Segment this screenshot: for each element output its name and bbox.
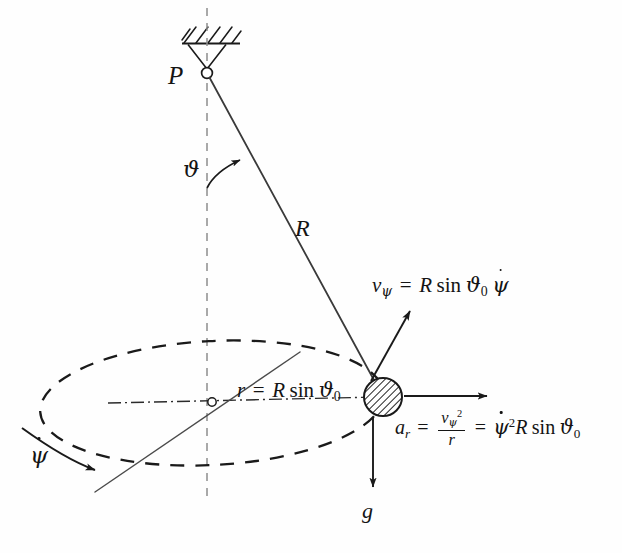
depth-axis-line	[95, 352, 300, 492]
gravity-label: g	[362, 500, 373, 522]
ceiling-support	[182, 27, 241, 69]
pivot-hinge-icon	[202, 68, 213, 79]
polar-angle-label: ϑ	[183, 158, 199, 181]
orbit-center-marker	[208, 398, 216, 406]
azimuth-rate-label: ψ	[30, 444, 48, 467]
velocity-vector-arrow	[371, 311, 410, 381]
pivot-label: P	[168, 63, 183, 88]
diagram-canvas: P ϑ R vψ=Rsinϑ0ψ r=Rsinϑ0 ar=vψ2r=ψ2Rsin…	[0, 0, 622, 553]
orbit-radius-equation-label: r=Rsinϑ0	[237, 380, 341, 404]
theta-angle-arc	[207, 160, 240, 188]
velocity-equation-label: vψ=Rsinϑ0ψ	[372, 275, 509, 299]
spherical-pendulum-figure	[0, 0, 622, 553]
rod-length-label: R	[295, 216, 310, 240]
velocity-squared-over-r-fraction: vψ2r	[438, 409, 465, 448]
hatching-icon	[182, 27, 241, 43]
radial-acceleration-equation-label: ar=vψ2r=ψ2Rsinϑ0	[395, 410, 580, 449]
